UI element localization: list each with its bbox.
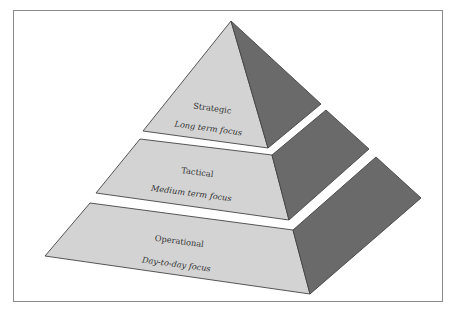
tier-strategic: Strategic Long term focus <box>143 21 321 148</box>
pyramid-diagram: Strategic Long term focus Tactical Mediu… <box>0 0 453 315</box>
